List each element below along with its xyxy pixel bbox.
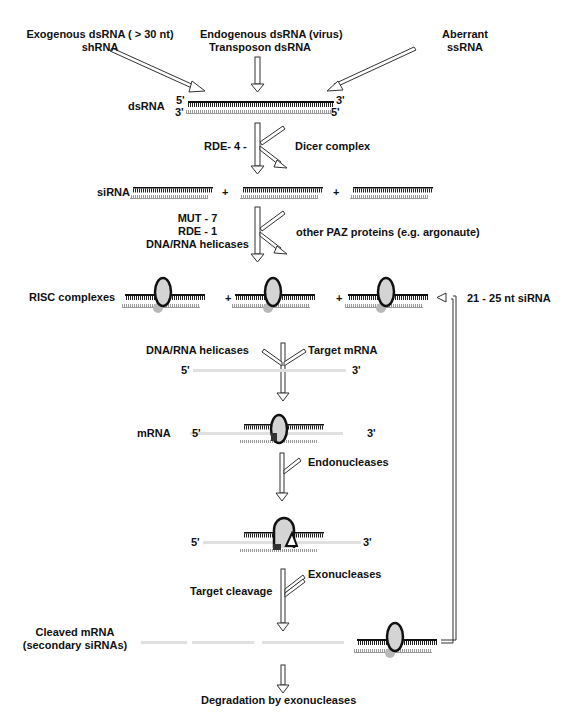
- label-mrna: mRNA: [137, 427, 171, 440]
- pathway-diagram: [0, 0, 569, 712]
- plus-2: +: [333, 186, 339, 199]
- arrow-endonuclease: [276, 453, 301, 501]
- arrow-feedback: [437, 293, 456, 643]
- label-risc: RISC complexes: [29, 291, 115, 304]
- mrna-5prime: 5': [192, 427, 201, 440]
- label-dsrna: dsRNA: [128, 100, 165, 113]
- cleave-3prime: 3': [363, 536, 372, 549]
- label-target-cleavage: Target cleavage: [190, 585, 272, 598]
- plus-1: +: [222, 186, 228, 199]
- source-aberrant: Aberrant ssRNA: [415, 28, 515, 54]
- label-dicer: Dicer complex: [295, 140, 370, 153]
- label-sirna: siRNA: [97, 186, 130, 199]
- label-rde4: RDE- 4 -: [204, 140, 247, 153]
- label-paz: other PAZ proteins (e.g. argonaute): [296, 226, 480, 239]
- label-target-mrna: Target mRNA: [308, 344, 377, 357]
- target-mrna-strand: [193, 369, 346, 372]
- arrow-exogenous: [110, 48, 205, 92]
- target-5prime: 5': [181, 364, 190, 377]
- source-exogenous: Exogenous dsRNA ( > 30 nt) shRNA: [10, 28, 190, 54]
- mrna-bound: [190, 415, 343, 443]
- label-degradation: Degradation by exonucleases: [201, 694, 356, 707]
- label-cleaved-mrna: Cleaved mRNA (secondary siRNAs): [20, 626, 130, 652]
- mrna-cleaving: [203, 518, 361, 552]
- label-feedback: 21 - 25 nt siRNA: [467, 292, 551, 305]
- label-helicases: DNA/RNA helicases: [146, 344, 249, 357]
- label-exonucleases: Exonucleases: [308, 568, 381, 581]
- plus-4: +: [336, 292, 342, 305]
- cleave-5prime: 5': [191, 536, 200, 549]
- source-endogenous: Endogenous dsRNA (virus) Transposon dsRN…: [200, 28, 320, 54]
- arrow-exonuclease: [277, 569, 305, 631]
- dsrna-3prime-bottom: 3': [175, 106, 184, 119]
- arrow-dicer: [251, 123, 287, 174]
- plus-3: +: [225, 292, 231, 305]
- arrow-endogenous: [251, 57, 264, 92]
- target-3prime: 3': [352, 364, 361, 377]
- arrow-risc: [251, 207, 287, 262]
- dsrna-5prime-bottom: 5': [331, 106, 340, 119]
- mrna-3prime: 3': [367, 427, 376, 440]
- arrow-degradation: [277, 665, 289, 693]
- arrow-aberrant: [327, 47, 416, 91]
- dsrna-strands: [186, 101, 334, 114]
- label-endonucleases: Endonucleases: [308, 456, 389, 469]
- label-risc-factors: MUT - 7 RDE - 1 DNA/RNA helicases: [140, 212, 255, 251]
- cleaved-fragments: [141, 641, 344, 644]
